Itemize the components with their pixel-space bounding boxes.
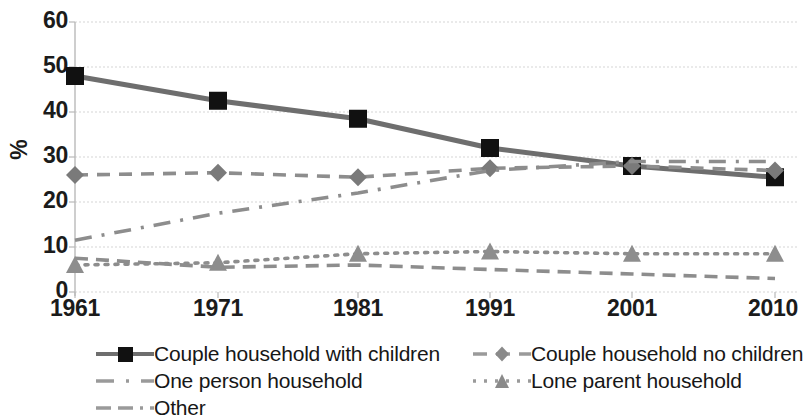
series-line-4 — [75, 258, 775, 278]
data-point-marker-1-0 — [66, 166, 84, 184]
legend-item-couple-with-children: Couple household with children — [96, 341, 440, 367]
legend-label-other: Other — [154, 397, 206, 419]
solid-square-key-icon — [96, 343, 154, 365]
legend-label-one-person: One person household — [154, 370, 363, 392]
series-line-3 — [75, 252, 775, 266]
dashdot-key-icon — [96, 370, 154, 392]
legend-item-one-person: One person household — [96, 368, 363, 394]
legend-item-other: Other — [96, 395, 206, 420]
data-point-marker-0-2 — [349, 110, 367, 128]
data-point-marker-0-3 — [481, 139, 499, 157]
longdash-key-icon — [96, 397, 154, 419]
data-point-marker-0-1 — [209, 92, 227, 110]
data-point-marker-1-2 — [349, 168, 367, 186]
data-point-marker-0-0 — [66, 67, 84, 85]
dotted-triangle-key-icon — [473, 370, 531, 392]
legend-item-lone-parent: Lone parent household — [473, 368, 742, 394]
series-line-2 — [75, 162, 775, 241]
chart-legend: Couple household with children Couple ho… — [96, 341, 803, 420]
dashed-diamond-key-icon — [473, 343, 531, 365]
legend-label-couple-no-children: Couple household no children — [531, 343, 803, 365]
series-line-1 — [75, 166, 775, 177]
legend-label-couple-with-children: Couple household with children — [154, 343, 440, 365]
legend-label-lone-parent: Lone parent household — [531, 370, 742, 392]
data-point-marker-1-1 — [209, 164, 227, 182]
legend-item-couple-no-children: Couple household no children — [473, 341, 803, 367]
household-composition-line-chart: 60 50 40 30 20 10 0 % 1961 1971 1981 199… — [0, 0, 803, 420]
data-point-marker-1-3 — [481, 159, 499, 177]
